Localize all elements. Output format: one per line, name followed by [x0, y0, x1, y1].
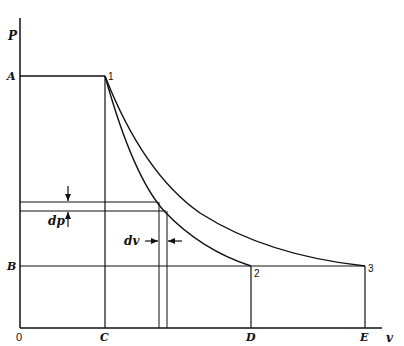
dp-label: dp: [48, 214, 65, 228]
label-E: E: [359, 331, 369, 344]
state-3-label: 3: [368, 263, 374, 274]
label-A: A: [6, 70, 16, 83]
pv-diagram: P v 0 A B C D E 1 2 3 dp dv: [0, 0, 404, 346]
label-C: C: [100, 331, 109, 344]
dv-label: dv: [124, 234, 140, 248]
label-B: B: [6, 260, 16, 273]
state-2-label: 2: [254, 268, 260, 279]
x-axis-label: v: [386, 331, 394, 345]
curve-1-3: [105, 76, 365, 266]
label-D: D: [245, 331, 256, 344]
state-1-label: 1: [108, 71, 114, 82]
origin-label: 0: [16, 331, 22, 343]
y-axis-label: P: [7, 29, 18, 43]
